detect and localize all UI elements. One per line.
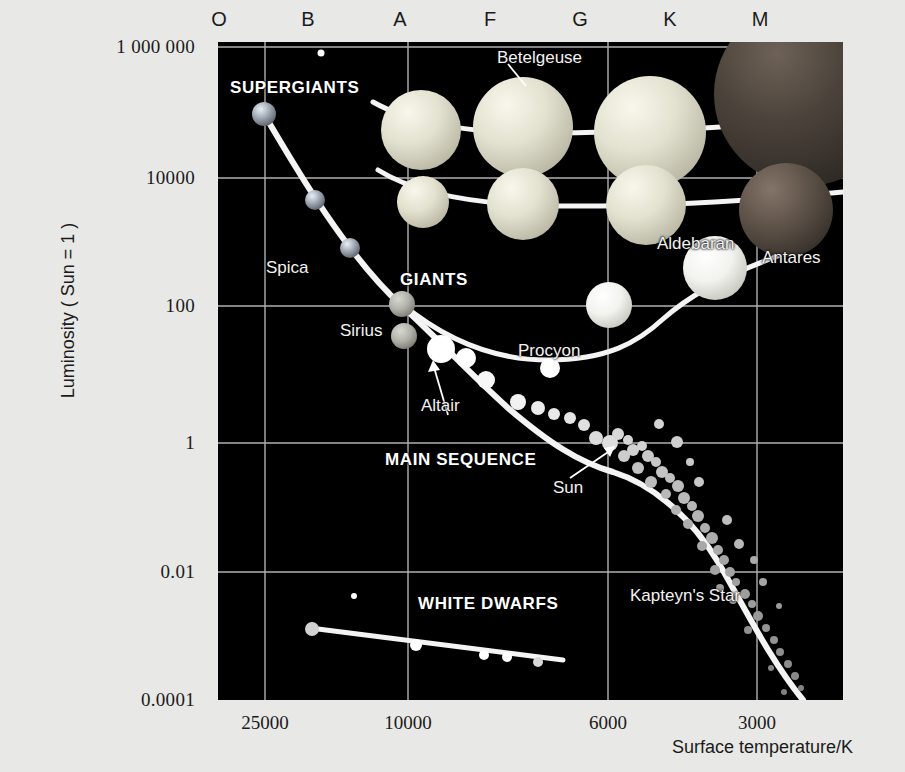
star-label-antares: Antares xyxy=(762,248,821,268)
x-axis-title: Surface temperature/K xyxy=(672,737,853,758)
star-sphere-supergiant-1 xyxy=(381,90,461,170)
star-sphere-hot-1 xyxy=(252,102,276,126)
star-label-altair: Altair xyxy=(421,396,460,416)
star-label-betelgeuse: Betelgeuse xyxy=(497,48,582,68)
star-label-sirius: Sirius xyxy=(340,321,383,341)
region-label-white-dwarfs: WHITE DWARFS xyxy=(418,594,558,614)
star-sphere-spica xyxy=(340,238,360,258)
star-sphere-brightgiant-4 xyxy=(739,163,833,257)
x-tick-6000: 6000 xyxy=(553,712,663,734)
spectral-class-a: A xyxy=(370,8,430,31)
star-sphere-procyon xyxy=(540,358,560,378)
y-tick-100: 100 xyxy=(20,295,195,317)
star-sphere-betelgeuse xyxy=(473,77,573,177)
star-sphere-ms-6 xyxy=(564,412,576,424)
star-sphere-ms-7 xyxy=(578,419,590,431)
y-tick-0.01: 0.01 xyxy=(20,561,195,583)
region-label-giants: GIANTS xyxy=(400,270,468,290)
star-sphere-ms-5 xyxy=(548,408,560,420)
star-sphere-giant-1 xyxy=(586,282,632,328)
hr-diagram-figure: Luminosity ( Sun = 1 ) 1 000 000 10000 1… xyxy=(0,0,905,772)
y-tick-1: 1 xyxy=(20,432,195,454)
star-sphere-ms-8 xyxy=(589,431,603,445)
spectral-class-f: F xyxy=(460,8,520,31)
star-sphere-ms-1 xyxy=(427,335,455,363)
star-label-kapteyns-star: Kapteyn's Star xyxy=(630,586,740,606)
star-label-aldebaran: Aldebaran xyxy=(657,234,735,254)
star-sphere-altair xyxy=(456,348,476,368)
x-tick-10000: 10000 xyxy=(348,712,468,734)
y-tick-1000000: 1 000 000 xyxy=(20,36,195,58)
star-sphere-ms-4 xyxy=(531,401,545,415)
star-sphere-sirius xyxy=(391,323,417,349)
y-tick-10000: 10000 xyxy=(20,167,195,189)
star-sphere-top-dot xyxy=(318,50,325,57)
spectral-class-g: G xyxy=(550,8,610,31)
spectral-class-o: O xyxy=(189,8,249,31)
star-sphere-brightgiant-3 xyxy=(606,165,686,245)
star-label-sun: Sun xyxy=(553,478,583,498)
star-sphere-hot-2 xyxy=(305,190,325,210)
star-label-spica: Spica xyxy=(266,258,309,278)
star-sphere-ms-3 xyxy=(510,394,526,410)
x-tick-25000: 25000 xyxy=(205,712,325,734)
spectral-class-k: K xyxy=(640,8,700,31)
star-label-procyon: Procyon xyxy=(518,341,580,361)
white-dwarf-line xyxy=(310,628,563,660)
y-tick-0.0001: 0.0001 xyxy=(20,689,195,711)
plot-area: SUPERGIANTS GIANTS MAIN SEQUENCE WHITE D… xyxy=(218,42,843,700)
star-sphere-brightgiant-1 xyxy=(397,176,449,228)
main-sequence-scatter xyxy=(612,419,804,695)
region-label-main-sequence: MAIN SEQUENCE xyxy=(385,450,536,470)
spectral-class-m: M xyxy=(730,8,790,31)
star-sphere-ms-a xyxy=(389,291,415,317)
star-sphere-ms-2 xyxy=(477,371,495,389)
region-label-supergiants: SUPERGIANTS xyxy=(230,78,359,98)
x-tick-3000: 3000 xyxy=(702,712,812,734)
star-sphere-brightgiant-2 xyxy=(487,168,559,240)
spectral-class-b: B xyxy=(278,8,338,31)
